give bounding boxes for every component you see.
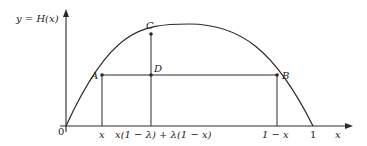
point-C — [149, 32, 153, 36]
tick-label-1: 1 — [310, 129, 316, 140]
origin-label: 0 — [58, 126, 64, 137]
point-A — [100, 73, 104, 77]
y-axis-arrow-icon — [63, 9, 69, 17]
label-B: B — [281, 70, 289, 81]
tick-label-1-minus-x: 1 − x — [262, 129, 289, 140]
axes — [60, 9, 353, 132]
graph-canvas: y = H(x) A B C D 0 x x(1 − λ) + λ(1 − x)… — [0, 0, 367, 146]
label-C: C — [146, 20, 154, 31]
label-D: D — [153, 63, 162, 74]
point-B — [275, 73, 279, 77]
tick-label-convex-combo: x(1 − λ) + λ(1 − x) — [115, 129, 212, 140]
label-A: A — [90, 70, 98, 81]
x-axis-label: x — [335, 129, 341, 140]
tick-label-x: x — [99, 129, 105, 140]
y-axis-label: y = H(x) — [15, 13, 59, 24]
point-D — [149, 73, 153, 77]
x-axis-arrow-icon — [345, 123, 353, 129]
